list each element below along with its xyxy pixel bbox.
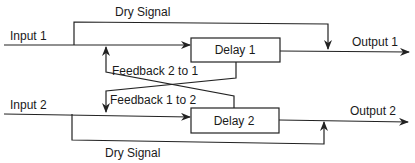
output-1-line [280, 51, 409, 52]
delay-1-label: Delay 1 [215, 43, 256, 57]
output-2-label: Output 2 [350, 104, 396, 118]
input-1-label: Input 1 [10, 29, 47, 43]
output-1-label: Output 1 [352, 35, 398, 49]
delay-2-label: Delay 2 [214, 114, 255, 128]
dry-signal-top-label: Dry Signal [115, 5, 170, 19]
input-2-label: Input 2 [10, 98, 47, 112]
delay-diagram: Input 1 Dry Signal Delay 1 Output 1 Feed… [0, 0, 415, 163]
feedback-2-to-1-label: Feedback 2 to 1 [112, 64, 198, 78]
input-2-line [4, 114, 190, 117]
dry-signal-bottom-label: Dry Signal [105, 146, 160, 160]
feedback-1-to-2-label: Feedback 1 to 2 [110, 93, 196, 107]
output-2-line [279, 120, 408, 122]
